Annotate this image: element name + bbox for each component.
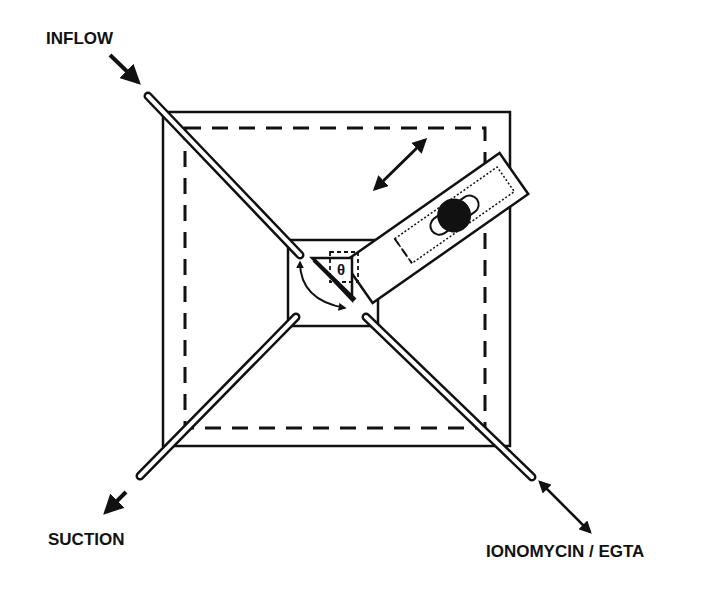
suction-arrow-icon <box>106 492 126 512</box>
ionomycin-egta-label: IONOMYCIN / EGTA <box>486 542 644 561</box>
theta-symbol: θ <box>337 261 345 278</box>
rotating-slider <box>344 153 528 303</box>
inflow-label: INFLOW <box>46 29 114 48</box>
suction-label: SUCTION <box>48 530 125 549</box>
slide-direction-arrow-icon <box>375 140 425 189</box>
ionomycin-tube <box>366 317 532 477</box>
perfusion-chamber-diagram: θ INFLOW SUCTION IONOMYCIN / EGTA <box>0 0 719 590</box>
inflow-tube <box>148 96 300 255</box>
inflow-arrow-icon <box>110 55 138 82</box>
ionomycin-arrow-icon <box>540 482 590 532</box>
